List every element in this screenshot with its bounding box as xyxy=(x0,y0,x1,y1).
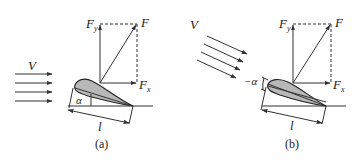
f-resultant-vector-b xyxy=(293,25,330,83)
angle-label-b: −α xyxy=(244,75,257,87)
panel-a: V α l Fy F Fx (a) xyxy=(15,15,153,151)
fy-label-a: Fy xyxy=(85,16,98,33)
flow-velocity-label-b: V xyxy=(190,17,200,32)
f-label-a: F xyxy=(140,15,150,30)
angle-label-a: α xyxy=(76,94,82,106)
chord-dimension-tick-b xyxy=(322,106,326,124)
panel-b: V −α l Fy F Fx (b) xyxy=(190,15,346,151)
flow-arrows-b xyxy=(197,36,247,78)
leading-edge-extension-a xyxy=(69,88,73,108)
angle-tick-top-b xyxy=(262,77,268,80)
airfoil-b xyxy=(268,80,326,106)
fy-label-b: Fy xyxy=(278,16,291,33)
fx-label-a: Fx xyxy=(138,77,151,94)
caption-b: (b) xyxy=(285,137,299,151)
chord-label-a: l xyxy=(98,119,102,134)
chord-dimension-tick-a xyxy=(129,106,133,124)
airfoil-force-diagram: V α l Fy F Fx (a) V xyxy=(0,0,361,160)
caption-a: (a) xyxy=(95,137,108,151)
flow-arrows-a xyxy=(15,74,52,101)
f-resultant-vector-a xyxy=(100,25,136,83)
fx-label-b: Fx xyxy=(332,77,345,94)
flow-velocity-label-a: V xyxy=(28,58,38,73)
chord-label-b: l xyxy=(290,118,294,133)
f-label-b: F xyxy=(334,15,344,30)
angle-arc-b xyxy=(263,78,264,90)
